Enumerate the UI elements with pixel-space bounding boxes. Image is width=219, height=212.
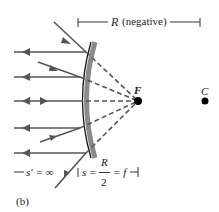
radius-note: (negative) <box>122 16 167 27</box>
center-point <box>202 98 209 105</box>
s-prime-eq: s′ = ∞ <box>26 167 53 178</box>
eq-denominator: 2 <box>101 177 107 188</box>
focal-point <box>134 97 142 105</box>
eq-numerator: R <box>101 157 108 168</box>
s-eq: s = <box>82 167 96 178</box>
f-eq: = f <box>113 167 126 178</box>
center-label: C <box>201 86 208 97</box>
ray-diagram <box>0 0 219 212</box>
panel-label: (b) <box>16 196 29 207</box>
radius-label: R <box>111 16 118 28</box>
incident-rays <box>38 22 86 188</box>
fraction-bar <box>99 172 110 173</box>
focal-label: F <box>134 85 141 96</box>
concave-mirror-diagram: R (negative) F C s′ = ∞ s = R 2 = f (b) <box>0 0 219 212</box>
arrowheads <box>22 37 71 177</box>
